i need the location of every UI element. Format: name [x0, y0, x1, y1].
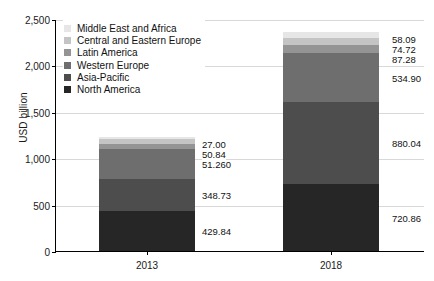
y-tick-label: 2,000 [25, 61, 50, 72]
legend-item-central-and-eastern-europe[interactable]: Central and Eastern Europe [64, 34, 201, 46]
bar-segment-central-and-eastern-europe[interactable] [99, 139, 195, 144]
value-label-central-and-eastern-europe-2013: 50.84 [202, 150, 226, 160]
legend-item-north-america[interactable]: North America [64, 83, 201, 95]
stacked-bar[interactable] [99, 137, 195, 251]
bar-segment-latin-america[interactable] [283, 45, 379, 53]
value-label-north-america-2013: 429.84 [202, 227, 231, 237]
legend-item-label: North America [77, 84, 140, 95]
stacked-bar-chart: USD billion 05001,0001,5002,0002,500 201… [0, 0, 434, 281]
x-tick-mark [331, 251, 332, 255]
y-tick-mark [52, 66, 56, 67]
value-label-middle-east-and-africa-2013: 27.00 [202, 140, 226, 150]
legend-item-label: Latin America [77, 47, 138, 58]
bar-segment-asia-pacific[interactable] [283, 102, 379, 184]
legend-item-middle-east-and-africa[interactable]: Middle East and Africa [64, 22, 201, 34]
bar-segment-middle-east-and-africa[interactable] [99, 137, 195, 140]
value-label-western-europe-2018: 534.90 [392, 74, 421, 84]
value-label-latin-america-2018: 87.28 [392, 55, 416, 65]
value-label-central-and-eastern-europe-2018: 74.72 [392, 45, 416, 55]
legend-item-western-europe[interactable]: Western Europe [64, 59, 201, 71]
y-tick-mark [52, 113, 56, 114]
legend-item-label: Asia-Pacific [77, 72, 129, 83]
y-tick-mark [52, 206, 56, 207]
y-tick-mark [52, 20, 56, 21]
legend-item-asia-pacific[interactable]: Asia-Pacific [64, 71, 201, 83]
x-tick-mark [147, 251, 148, 255]
y-tick-label: 1,500 [25, 107, 50, 118]
y-tick-label: 0 [44, 247, 50, 258]
legend-swatch-icon [64, 86, 71, 93]
y-tick-label: 1,000 [25, 154, 50, 165]
legend-swatch-icon [64, 62, 71, 69]
legend-swatch-icon [64, 37, 71, 44]
legend-item-label: Central and Eastern Europe [77, 35, 201, 46]
value-label-asia-pacific-2018: 880.04 [392, 139, 421, 149]
legend: Middle East and AfricaCentral and Easter… [63, 20, 205, 98]
bar-group-2018[interactable]: 2018 [283, 19, 379, 251]
value-label-asia-pacific-2013: 348.73 [202, 191, 231, 201]
value-label-north-america-2018: 720.86 [392, 214, 421, 224]
y-tick-mark [52, 159, 56, 160]
legend-item-label: Western Europe [77, 60, 149, 71]
stacked-bar[interactable] [283, 32, 379, 251]
bar-segment-central-and-eastern-europe[interactable] [283, 38, 379, 45]
bar-segment-asia-pacific[interactable] [99, 179, 195, 211]
y-tick-mark [52, 252, 56, 253]
bar-segment-north-america[interactable] [283, 184, 379, 251]
value-label-latin-america-2013: 51.26 [202, 160, 226, 170]
bar-segment-western-europe[interactable] [99, 149, 195, 179]
legend-swatch-icon [64, 49, 71, 56]
legend-swatch-icon [64, 25, 71, 32]
bar-segment-latin-america[interactable] [99, 144, 195, 149]
x-tick-label-2013: 2013 [136, 260, 158, 271]
bar-segment-north-america[interactable] [99, 211, 195, 251]
y-tick-label: 2,500 [25, 15, 50, 26]
legend-item-latin-america[interactable]: Latin America [64, 47, 201, 59]
value-label-middle-east-and-africa-2018: 58.09 [392, 35, 416, 45]
y-tick-label: 500 [33, 200, 50, 211]
x-tick-label-2018: 2018 [320, 260, 342, 271]
bar-segment-western-europe[interactable] [283, 53, 379, 103]
legend-swatch-icon [64, 74, 71, 81]
legend-item-label: Middle East and Africa [77, 23, 177, 34]
bar-segment-middle-east-and-africa[interactable] [283, 32, 379, 37]
